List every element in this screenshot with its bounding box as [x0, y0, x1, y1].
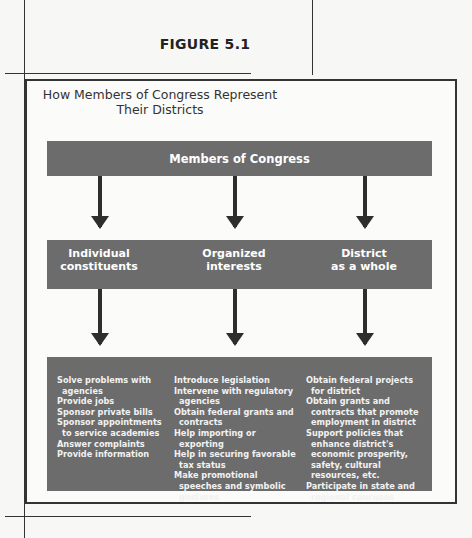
activities-individual-constituents: Solve problems with agencies Provide job… [57, 375, 165, 460]
activity-item: Answer complaints [57, 439, 165, 450]
activities-organized-interests: Introduce legislation Intervene with reg… [174, 375, 296, 502]
group-label-line1: Individual [39, 247, 159, 260]
activity-item: Help in securing favorable tax status [174, 449, 296, 470]
activities-district-as-a-whole: Obtain federal projects for district Obt… [306, 375, 428, 502]
activity-item: Sponsor private bills [57, 407, 165, 418]
represented-groups-box: Individual constituents Organized intere… [47, 240, 432, 289]
activity-item: Solve problems with agencies [57, 375, 165, 396]
arrow-down-icon [98, 176, 102, 227]
page-rule-bottom-horizontal [5, 516, 251, 517]
group-label-line2: as a whole [304, 260, 424, 273]
figure-label: FIGURE 5.1 [130, 36, 280, 52]
activity-item: Provide information [57, 449, 165, 460]
activity-item: Obtain federal projects for district [306, 375, 428, 396]
group-label-line1: Organized [174, 247, 294, 260]
activity-item: Participate in state and regional caucus… [306, 481, 428, 502]
activity-item: Help importing or exporting [174, 428, 296, 449]
group-label-line2: interests [174, 260, 294, 273]
activity-item: Support policies that enhance district's… [306, 428, 428, 481]
activity-item: Sponsor appointments to service academie… [57, 417, 165, 438]
activity-item: Intervene with regulatory agencies [174, 386, 296, 407]
figure-title-line1: How Members of Congress Represent [35, 87, 285, 102]
activities-box: Solve problems with agencies Provide job… [47, 357, 432, 491]
arrow-down-icon [363, 176, 367, 227]
arrow-down-icon [98, 289, 102, 344]
activity-item: Make promotional speeches and symbolic g… [174, 470, 296, 502]
activity-item: Obtain grants and contracts that promote… [306, 396, 428, 428]
activity-item: Obtain federal grants and contracts [174, 407, 296, 428]
arrow-down-icon [233, 289, 237, 344]
group-individual-constituents: Individual constituents [39, 247, 159, 273]
activity-item: Introduce legislation [174, 375, 296, 386]
activity-item: Provide jobs [57, 396, 165, 407]
arrow-down-icon [233, 176, 237, 227]
page-rule-center-vertical [312, 0, 313, 75]
members-of-congress-box: Members of Congress [47, 141, 432, 176]
group-organized-interests: Organized interests [174, 247, 294, 273]
group-label-line1: District [304, 247, 424, 260]
page-rule-top-horizontal [5, 73, 251, 74]
figure-title-line2: Their Districts [35, 102, 285, 117]
members-of-congress-label: Members of Congress [169, 152, 310, 166]
group-district-as-a-whole: District as a whole [304, 247, 424, 273]
group-label-line2: constituents [39, 260, 159, 273]
figure-title: How Members of Congress Represent Their … [35, 87, 285, 117]
arrow-down-icon [363, 289, 367, 344]
